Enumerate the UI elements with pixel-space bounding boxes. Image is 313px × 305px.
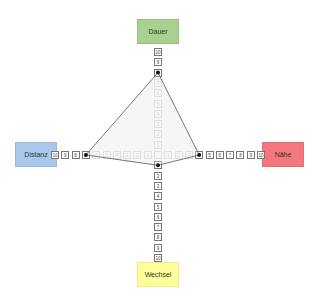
- data-point: [197, 153, 201, 157]
- data-point: [156, 163, 160, 167]
- data-point: [84, 153, 88, 157]
- data-point: [156, 71, 160, 75]
- data-polygon: [0, 0, 313, 305]
